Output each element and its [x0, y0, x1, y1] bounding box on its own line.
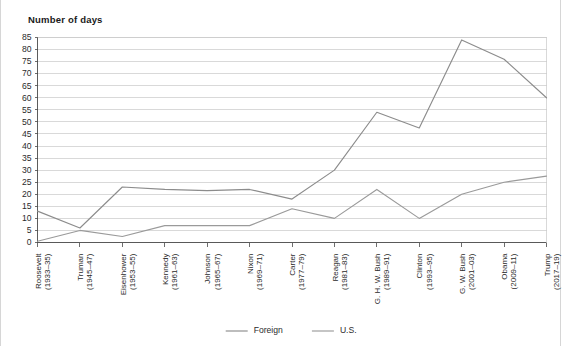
x-tick-label: Nixon(1969–71)	[246, 253, 264, 290]
y-tick-label: 10	[22, 213, 32, 223]
line-chart: 0510152025303540455055606570758085 Roose…	[1, 0, 562, 346]
x-tick-president: Roosevelt	[34, 253, 43, 289]
chart-legend: ForeignU.S.	[226, 325, 357, 335]
x-tick-president: Reagan	[331, 254, 340, 282]
y-tick-label: 30	[22, 165, 32, 175]
x-tick-president: Trump	[543, 253, 552, 276]
x-tick-president: Obama	[500, 253, 509, 280]
x-tick-president: Kennedy	[161, 254, 170, 286]
x-tick-years: (1989–91)	[382, 253, 391, 290]
x-tick-label: Reagan(1981–83)	[331, 253, 349, 290]
x-tick-years: (1969–71)	[255, 253, 264, 290]
x-tick-years: (2009–11)	[509, 253, 518, 289]
data-series	[38, 40, 547, 241]
x-tick-years: (2017–19)	[552, 253, 561, 290]
axis-lines	[38, 38, 547, 243]
x-tick-label: Carter(1977–79)	[288, 253, 306, 290]
x-tick-president: G. W. Bush	[458, 254, 467, 294]
x-tick-years: (2001–03)	[467, 253, 476, 290]
x-tick-label: Johnson(1965–67)	[203, 253, 221, 290]
y-tick-label: 85	[22, 32, 32, 42]
x-tick-president: Eisenhower	[119, 253, 128, 295]
x-tick-label: G. H. W. Bush(1989–91)	[373, 253, 391, 304]
y-tick-label: 35	[22, 153, 32, 163]
plot-area: 0510152025303540455055606570758085 Roose…	[1, 0, 562, 346]
x-axis-ticks: Roosevelt(1933–35)Truman(1945–47)Eisenho…	[34, 243, 561, 305]
x-tick-label: Trump(2017–19)	[543, 253, 561, 290]
x-tick-years: (1961–63)	[170, 253, 179, 290]
y-tick-label: 60	[22, 93, 32, 103]
x-tick-president: Truman	[76, 254, 85, 281]
x-tick-years: (1933–35)	[43, 253, 52, 290]
x-tick-years: (1945–47)	[85, 253, 94, 290]
y-tick-label: 75	[22, 56, 32, 66]
x-tick-label: Obama(2009–11)	[500, 253, 518, 289]
y-tick-label: 25	[22, 177, 32, 187]
x-tick-years: (1977–79)	[297, 253, 306, 290]
x-tick-years: (1993–95)	[425, 253, 434, 290]
x-tick-president: Clinton	[415, 254, 424, 279]
x-tick-label: Eisenhower(1953–55)	[119, 253, 137, 295]
y-tick-label: 5	[27, 225, 32, 235]
y-tick-label: 20	[22, 189, 32, 199]
y-tick-label: 0	[27, 237, 32, 247]
y-tick-label: 15	[22, 201, 32, 211]
x-tick-label: Roosevelt(1933–35)	[34, 253, 52, 290]
x-tick-years: (1953–55)	[128, 253, 137, 290]
x-tick-label: Clinton(1993–95)	[415, 253, 433, 290]
legend-label: U.S.	[340, 325, 357, 335]
series-line-u-s	[38, 176, 547, 241]
y-tick-label: 65	[22, 81, 32, 91]
legend-label: Foreign	[254, 325, 283, 335]
x-tick-president: Nixon	[246, 254, 255, 274]
y-tick-label: 55	[22, 105, 32, 115]
x-tick-president: Johnson	[203, 254, 212, 284]
x-tick-label: G. W. Bush(2001–03)	[458, 253, 476, 294]
x-tick-president: G. H. W. Bush	[373, 254, 382, 305]
y-tick-label: 50	[22, 117, 32, 127]
gridlines	[38, 38, 547, 243]
x-tick-president: Carter	[288, 253, 297, 276]
y-tick-label: 45	[22, 129, 32, 139]
y-tick-label: 80	[22, 44, 32, 54]
x-tick-years: (1965–67)	[213, 253, 222, 290]
y-tick-label: 70	[22, 68, 32, 78]
y-tick-label: 40	[22, 141, 32, 151]
x-tick-label: Truman(1945–47)	[76, 253, 94, 290]
x-tick-label: Kennedy(1961–63)	[161, 253, 179, 290]
x-tick-years: (1981–83)	[340, 253, 349, 290]
y-axis-ticks: 0510152025303540455055606570758085	[22, 32, 38, 247]
